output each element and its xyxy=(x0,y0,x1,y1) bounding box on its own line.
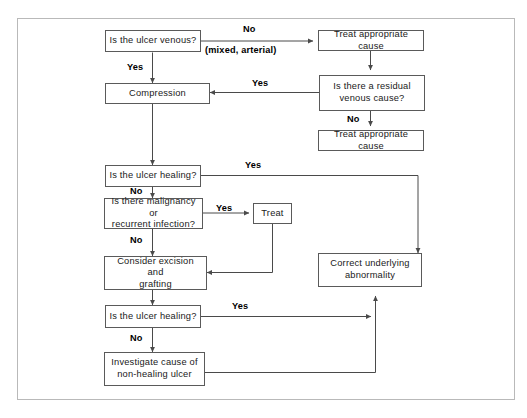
node-excision-grafting[interactable]: Consider excision and grafting xyxy=(104,256,207,290)
node-treat-cause-second[interactable]: Treat appropriate cause xyxy=(318,130,424,151)
edge-label-mixed-arterial: (mixed, arterial) xyxy=(205,45,277,55)
node-ulcer-venous[interactable]: Is the ulcer venous? xyxy=(105,30,201,52)
node-residual-venous[interactable]: Is there a residual venous cause? xyxy=(319,75,425,111)
edge-label-no-healing-2: No xyxy=(130,333,143,343)
node-treat-cause-top[interactable]: Treat appropriate cause xyxy=(318,30,424,51)
node-ulcer-healing-1[interactable]: Is the ulcer healing? xyxy=(105,165,201,187)
edge-label-no-malignancy: No xyxy=(130,235,143,245)
node-ulcer-healing-2[interactable]: Is the ulcer healing? xyxy=(105,305,201,328)
edge-label-yes-healing-1: Yes xyxy=(245,160,261,170)
node-investigate-cause[interactable]: Investigate cause of non-healing ulcer xyxy=(104,352,205,386)
node-treat[interactable]: Treat xyxy=(253,203,292,224)
edge-label-yes-healing-2: Yes xyxy=(232,301,248,311)
node-malignancy[interactable]: Is there malignancy or recurrent infecti… xyxy=(104,198,203,229)
edge-label-yes-residual: Yes xyxy=(252,78,268,88)
node-compression[interactable]: Compression xyxy=(105,83,210,104)
edge-label-yes-venous: Yes xyxy=(127,62,143,72)
node-correct-underlying[interactable]: Correct underlying abnormality xyxy=(318,253,422,287)
edge-label-no-healing-1: No xyxy=(130,186,143,196)
edge-label-no-top: No xyxy=(243,24,256,34)
flowchart-canvas: Is the ulcer venous? Treat appropriate c… xyxy=(0,0,527,418)
edge-label-no-residual: No xyxy=(347,114,360,124)
edge-label-yes-malignancy: Yes xyxy=(216,203,232,213)
